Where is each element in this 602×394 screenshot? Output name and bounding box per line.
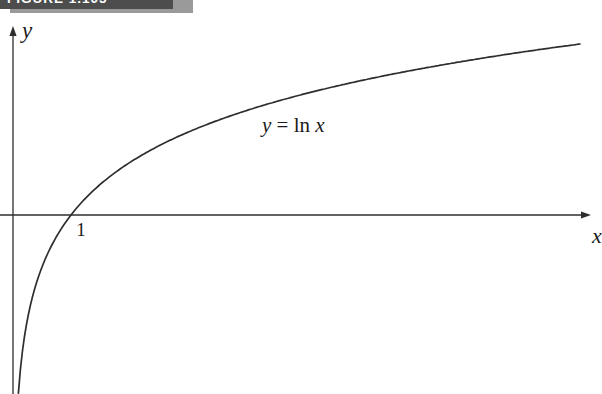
y-axis-arrow-icon: [9, 26, 16, 36]
equation-equals: =: [277, 113, 289, 137]
equation-function: ln: [294, 113, 310, 137]
x-tick-label-1: 1: [74, 219, 88, 241]
x-axis-arrow-icon: [581, 211, 591, 218]
curve-equation-label: y = ln x: [262, 113, 325, 138]
figure-banner: FIGURE 1.105: [0, 0, 173, 9]
y-axis-label: y: [22, 18, 32, 44]
ln-curve: [18, 44, 580, 393]
figure-label: FIGURE 1.105: [7, 0, 108, 6]
equation-lhs: y: [262, 113, 271, 137]
x-axis-label: x: [592, 223, 602, 249]
equation-arg: x: [315, 113, 324, 137]
